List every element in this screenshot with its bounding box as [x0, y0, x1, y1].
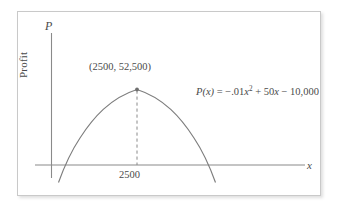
x-axis-symbol-label: x	[307, 160, 312, 171]
equation-lhs: P(x)	[196, 86, 214, 97]
vertex-annotation: (2500, 52,500)	[89, 62, 151, 73]
equation-term1-coefficient: −.01	[225, 86, 244, 97]
vertex-dot	[135, 88, 139, 92]
y-axis-symbol-label: P	[45, 20, 52, 32]
equation-term3: − 10,000	[279, 86, 319, 97]
equation-equals: =	[214, 86, 225, 97]
figure-root: P x Profit (2500, 52,500) P(x) = −.01x2 …	[0, 0, 338, 209]
x-tick-label-2500: 2500	[119, 170, 140, 181]
equation-annotation: P(x) = −.01x2 + 50x − 10,000	[196, 87, 319, 98]
y-axis-title: Profit	[18, 52, 29, 78]
equation-term2: + 50	[253, 86, 275, 97]
